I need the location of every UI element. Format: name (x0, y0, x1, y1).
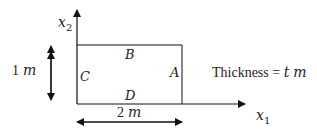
edge-label-B: B (124, 47, 135, 62)
y-axis-label: x2 (58, 14, 72, 33)
edge-label-A: A (169, 65, 179, 80)
thickness-label: Thickness = tm (212, 64, 307, 80)
width-label: 2m (117, 104, 141, 120)
edge-label-D: D (124, 88, 136, 103)
diagram: x2 x1 B C A D 1m 2m Thickness = tm (0, 0, 317, 134)
edge-label-C: C (80, 69, 90, 84)
x-axis-label: x1 (256, 107, 270, 126)
height-label: 1m (12, 62, 36, 78)
